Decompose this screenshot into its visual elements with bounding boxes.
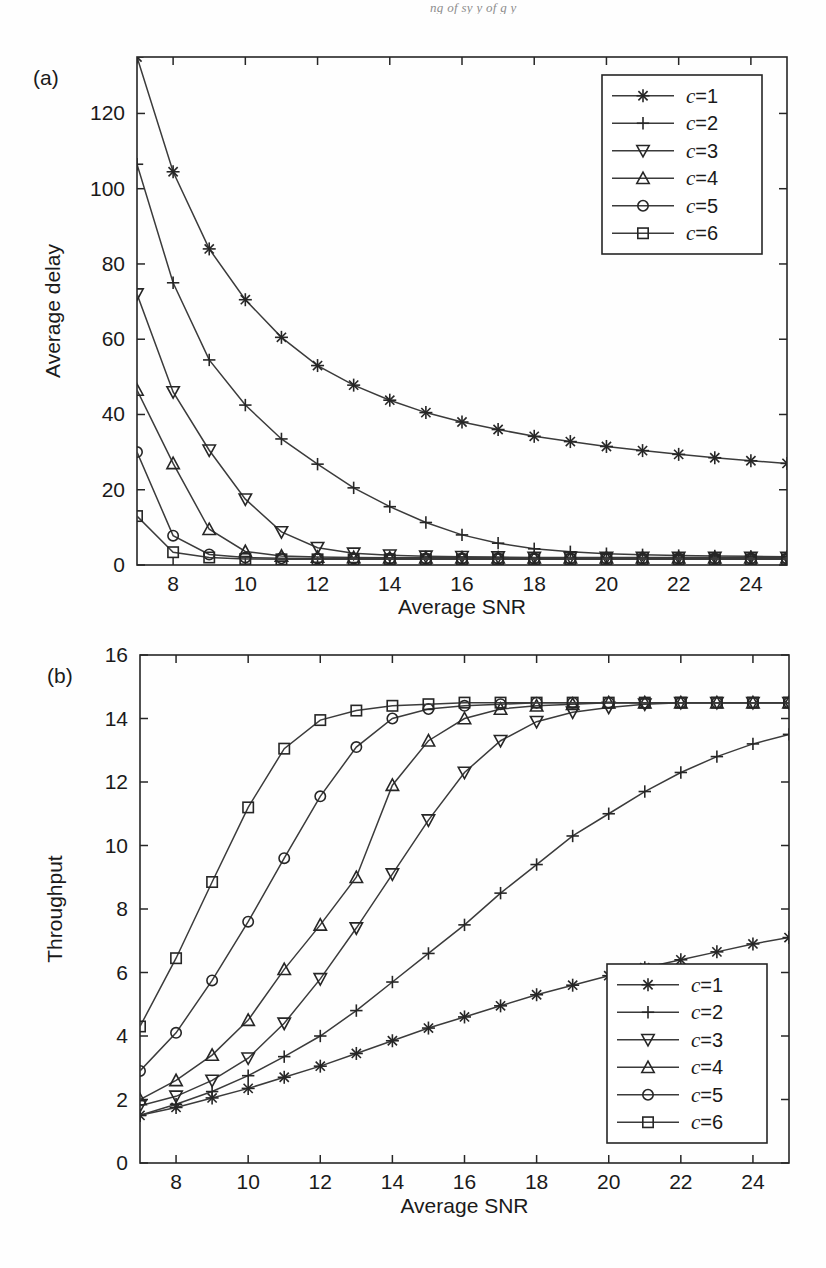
legend-item-label: c=2 xyxy=(686,111,718,135)
x-tick-label: 24 xyxy=(739,572,763,595)
y-tick-label: 10 xyxy=(105,834,128,857)
y-tick-label: 0 xyxy=(113,553,125,576)
legend-item-label: c=4 xyxy=(691,1055,723,1079)
legend-box xyxy=(602,75,762,254)
y-tick-label: 120 xyxy=(90,101,125,124)
y-tick-label: 60 xyxy=(102,327,125,350)
figure-container: 81012141618202224020406080100120c=1c=2c=… xyxy=(0,0,826,1268)
x-tick-label: 18 xyxy=(523,572,546,595)
y-tick-label: 6 xyxy=(116,961,128,984)
y-tick-label: 100 xyxy=(90,177,125,200)
y-tick-label: 0 xyxy=(116,1151,128,1174)
y-tick-label: 20 xyxy=(102,478,125,501)
legend-item-label: c=6 xyxy=(691,1110,723,1134)
y-axis-title: Throughput xyxy=(43,855,66,963)
x-tick-label: 20 xyxy=(595,572,618,595)
x-tick-label: 8 xyxy=(167,572,179,595)
panel-label: (a) xyxy=(33,66,59,89)
figure-page: ng of sy y of g y 8101214161820222402040… xyxy=(0,0,826,1268)
legend-item-label: c=6 xyxy=(686,221,718,245)
x-tick-label: 12 xyxy=(309,1170,332,1193)
legend-item-label: c=1 xyxy=(691,973,723,997)
y-tick-label: 8 xyxy=(116,897,128,920)
legend: c=1c=2c=3c=4c=5c=6 xyxy=(602,75,762,254)
figure-svg: 81012141618202224020406080100120c=1c=2c=… xyxy=(0,0,826,1268)
y-axis-title: Average delay xyxy=(41,244,64,378)
legend-item-label: c=4 xyxy=(686,166,718,190)
legend-item-label: c=2 xyxy=(691,1000,723,1024)
legend-box xyxy=(607,964,767,1143)
plot-panel-2: 810121416182022240246810121416c=1c=2c=3c… xyxy=(105,643,796,1193)
legend-item-label: c=3 xyxy=(686,139,718,163)
x-tick-label: 14 xyxy=(378,572,402,595)
series-line xyxy=(137,452,787,558)
x-tick-label: 12 xyxy=(306,572,329,595)
x-tick-label: 16 xyxy=(450,572,473,595)
legend-item-label: c=3 xyxy=(691,1028,723,1052)
y-tick-label: 16 xyxy=(105,643,128,666)
x-tick-label: 24 xyxy=(741,1170,765,1193)
x-tick-label: 22 xyxy=(669,1170,692,1193)
y-tick-label: 12 xyxy=(105,770,128,793)
x-tick-label: 8 xyxy=(170,1170,182,1193)
y-tick-label: 2 xyxy=(116,1088,128,1111)
legend-item-label: c=5 xyxy=(686,194,718,218)
x-tick-label: 10 xyxy=(234,572,257,595)
x-tick-label: 10 xyxy=(236,1170,259,1193)
y-tick-label: 4 xyxy=(116,1024,128,1047)
series-c5 xyxy=(132,447,792,564)
panel-label: (b) xyxy=(47,664,73,687)
x-axis-title: Average SNR xyxy=(398,595,526,618)
x-tick-label: 20 xyxy=(597,1170,620,1193)
y-tick-label: 14 xyxy=(105,707,129,730)
legend-item-label: c=5 xyxy=(691,1083,723,1107)
x-tick-label: 22 xyxy=(667,572,690,595)
legend: c=1c=2c=3c=4c=5c=6 xyxy=(607,964,767,1143)
x-axis-title: Average SNR xyxy=(400,1194,528,1217)
y-tick-label: 80 xyxy=(102,252,125,275)
x-tick-label: 16 xyxy=(453,1170,476,1193)
legend-item-label: c=1 xyxy=(686,84,718,108)
x-tick-label: 14 xyxy=(381,1170,405,1193)
x-tick-label: 18 xyxy=(525,1170,548,1193)
y-tick-label: 40 xyxy=(102,402,125,425)
plot-panel-1: 81012141618202224020406080100120c=1c=2c=… xyxy=(90,51,794,596)
